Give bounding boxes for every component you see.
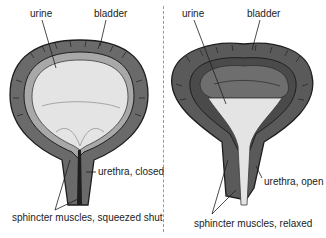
label-urethra-open: urethra, open [264,177,324,187]
panel-divider [163,6,164,232]
label-bladder-closed: bladder [94,9,127,19]
label-sphincter-closed: sphincter muscles, squeezed shut [12,213,163,223]
label-sphincter-open: sphincter muscles, relaxed [194,219,312,229]
label-urine-open: urine [182,9,204,19]
bladder-diagram: urine bladder urethra, closed sphincter … [0,0,326,238]
bladder-full-illustration [10,20,148,210]
label-bladder-open: bladder [247,9,280,19]
label-urethra-closed: urethra, closed [98,167,164,177]
label-urine-closed: urine [30,9,52,19]
